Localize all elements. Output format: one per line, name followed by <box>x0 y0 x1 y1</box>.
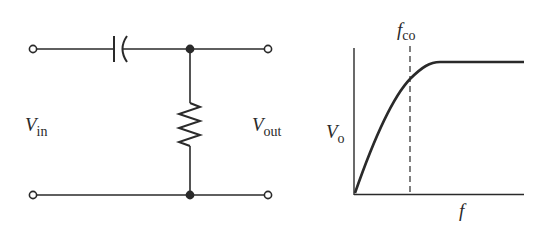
f-axis-label: f <box>459 200 467 221</box>
vout-label: Vout <box>252 114 282 139</box>
input-terminal-bottom <box>29 191 36 198</box>
circuit <box>29 36 271 199</box>
response-graph <box>354 46 524 195</box>
resistor <box>179 103 200 146</box>
junction-node-bottom <box>186 191 193 198</box>
response-curve <box>355 62 524 193</box>
vin-label: Vin <box>25 114 48 139</box>
junction-node-top <box>186 45 193 52</box>
input-terminal-top <box>29 45 36 52</box>
vo-label: Vo <box>326 121 345 146</box>
output-terminal-top <box>264 45 271 52</box>
fco-label: fco <box>397 19 416 43</box>
output-terminal-bottom <box>264 191 271 198</box>
diagram-canvas: Vin Vout Vo fco f <box>0 0 554 235</box>
